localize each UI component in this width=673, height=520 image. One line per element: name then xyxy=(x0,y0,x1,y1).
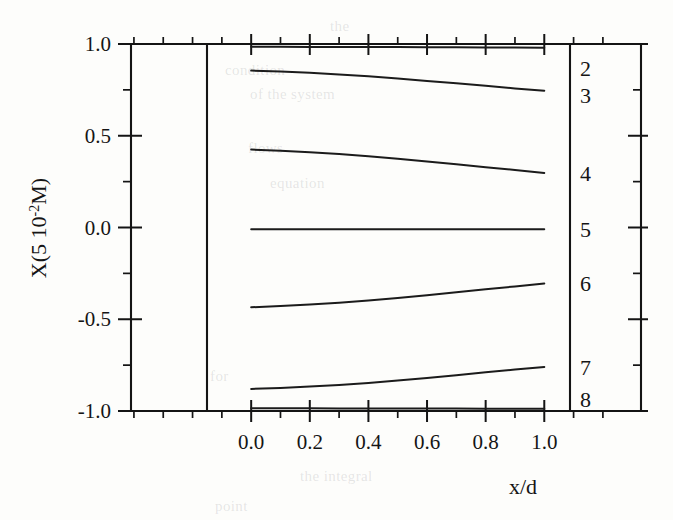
curve-labels: 2345678 xyxy=(580,56,591,412)
curve-7 xyxy=(251,367,544,389)
curves xyxy=(251,47,544,409)
y-axis-title-group: X(5 10-2M) xyxy=(26,178,51,278)
y-tick-labels: -1.0-0.50.00.51.0 xyxy=(78,32,111,423)
y-tick-label: 0.5 xyxy=(85,124,111,148)
x-tick-label: 0.4 xyxy=(355,430,382,454)
y-tick-label: 0.0 xyxy=(85,216,111,240)
x-tick-label: 0.2 xyxy=(297,430,323,454)
x-axis-title: x/d xyxy=(509,474,537,499)
x-tick-marks xyxy=(134,34,603,422)
curve-label-3: 3 xyxy=(580,83,591,108)
x-tick-label: 0.8 xyxy=(473,430,499,454)
curve-8 xyxy=(251,408,544,409)
line-chart: 0.00.20.40.60.81.0 -1.0-0.50.00.51.0 234… xyxy=(0,0,673,520)
y-axis-title: X(5 10-2M) xyxy=(26,178,51,278)
figure-page: theconditionof the systemflowsequationfo… xyxy=(0,0,673,520)
curve-label-6: 6 xyxy=(580,271,591,296)
curve-label-8: 8 xyxy=(580,387,591,412)
x-tick-labels: 0.00.20.40.60.81.0 xyxy=(238,430,557,454)
x-tick-label: 0.0 xyxy=(238,430,264,454)
curve-label-2: 2 xyxy=(580,56,591,81)
data-region-boundaries xyxy=(207,44,570,411)
y-tick-label: -1.0 xyxy=(78,399,111,423)
y-tick-label: -0.5 xyxy=(78,307,111,331)
curve-label-4: 4 xyxy=(580,161,591,186)
curve-2 xyxy=(251,47,544,48)
x-tick-label: 0.6 xyxy=(414,430,440,454)
curve-4 xyxy=(251,150,544,173)
x-tick-label: 1.0 xyxy=(531,430,557,454)
curve-label-5: 5 xyxy=(580,217,591,242)
curve-label-7: 7 xyxy=(580,355,591,380)
y-tick-label: 1.0 xyxy=(85,32,111,56)
y-tick-marks xyxy=(118,44,648,411)
curve-6 xyxy=(251,283,544,307)
curve-3 xyxy=(251,71,544,91)
